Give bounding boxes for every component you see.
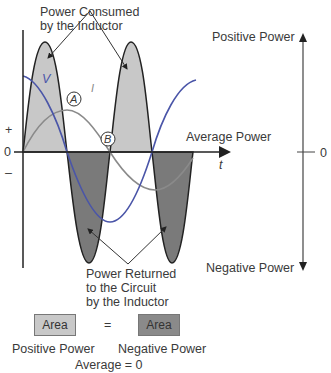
negative-power-scale-label: Negative Power <box>206 261 294 275</box>
positive-area-box: Area <box>34 314 76 336</box>
positive-power-lobe-2 <box>110 42 152 152</box>
average-power-label: Average Power <box>186 130 271 144</box>
equals-sign: = <box>104 318 111 332</box>
label-line: by the Inductor <box>86 295 176 309</box>
average-zero-caption: Average = 0 <box>75 358 143 372</box>
axis-plus-label: + <box>5 123 12 137</box>
negative-area-box: Area <box>138 314 180 336</box>
label-line: Power Consumed <box>40 5 139 19</box>
axis-minus-label: – <box>5 166 12 180</box>
positive-power-scale-label: Positive Power <box>212 30 295 44</box>
label-power-returned: Power Returned to the Circuit by the Ind… <box>86 267 176 309</box>
axis-zero-label: 0 <box>4 145 11 159</box>
positive-power-caption: Positive Power <box>12 342 95 356</box>
current-label: I <box>91 81 94 95</box>
marker-b-label: B <box>104 132 111 146</box>
label-power-consumed: Power Consumed by the Inductor <box>40 5 139 33</box>
power-scale-zero-label: 0 <box>320 146 327 160</box>
power-scale-down-arrow <box>299 262 307 271</box>
negative-power-caption: Negative Power <box>118 342 206 356</box>
label-line: by the Inductor <box>40 19 139 33</box>
label-line: Power Returned <box>86 267 176 281</box>
power-scale-up-arrow <box>299 33 307 42</box>
marker-a-label: A <box>70 92 77 106</box>
negative-power-lobe-2 <box>152 152 193 263</box>
voltage-label: V <box>42 72 50 86</box>
axis-time-label: t <box>219 158 222 172</box>
pointer-returned-2 <box>128 227 166 264</box>
label-line: to the Circuit <box>86 281 176 295</box>
